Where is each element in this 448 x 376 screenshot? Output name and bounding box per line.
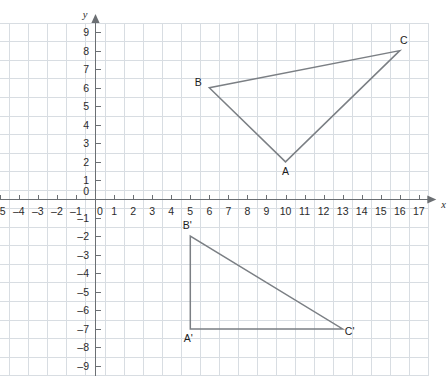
x-tick-label: 6 (206, 205, 212, 217)
x-tick-label: 16 (394, 205, 406, 217)
y-tick-label: 6 (83, 82, 89, 94)
x-tick-label: 8 (244, 205, 250, 217)
y-tick-label: –8 (77, 341, 89, 353)
x-tick-label: –5 (0, 205, 6, 217)
x-tick-label: 10 (280, 205, 292, 217)
y-tick-label: 9 (83, 26, 89, 38)
x-tick-label: 13 (337, 205, 349, 217)
x-axis-arrowhead (427, 195, 436, 203)
x-tick-label: 15 (375, 205, 387, 217)
y-tick-label: –3 (77, 249, 89, 261)
y-tick-label: 5 (83, 100, 89, 112)
vertex-label-a: A (282, 165, 289, 177)
x-tick-label: 5 (187, 205, 193, 217)
x-tick-label: –2 (51, 205, 63, 217)
x-tick-label: 11 (299, 205, 310, 217)
y-tick-label: 4 (83, 119, 89, 131)
x-tick-label: 9 (264, 205, 270, 217)
x-tick-label: 2 (130, 205, 136, 217)
vertex-label-c: C (400, 34, 408, 46)
x-tick-label: –3 (32, 205, 44, 217)
y-tick-label: 7 (83, 63, 89, 75)
x-tick-label: –4 (13, 205, 25, 217)
vertex-label-b: B (195, 76, 202, 88)
x-tick-label: 14 (356, 205, 368, 217)
y-axis-label: y (82, 9, 88, 20)
vertex-label-b-prime: B' (183, 219, 192, 231)
origin-label-upper: 0 (83, 185, 89, 197)
x-tick-label: 7 (225, 205, 231, 217)
origin-label-lower: 0 (97, 205, 103, 217)
y-tick-label: –6 (77, 304, 89, 316)
y-tick-label: 8 (83, 45, 89, 57)
y-tick-label: –2 (77, 230, 89, 242)
y-tick-label: 3 (83, 137, 89, 149)
coordinate-grid-svg: –5–4–3–2–1123456789101112131415161798765… (0, 0, 448, 376)
x-tick-label: 1 (111, 205, 117, 217)
y-tick-label: –4 (77, 267, 89, 279)
x-tick-label: 17 (413, 205, 425, 217)
coordinate-plane-figure: –5–4–3–2–1123456789101112131415161798765… (0, 0, 448, 376)
y-axis-arrowhead (91, 14, 99, 23)
y-tick-label: –1 (77, 212, 89, 224)
axes (0, 14, 436, 376)
vertex-label-a-prime: A' (184, 332, 193, 344)
x-tick-label: 4 (168, 205, 174, 217)
vertex-label-c-prime: C' (345, 325, 355, 337)
axis-names: xy (82, 9, 447, 210)
y-tick-label: –7 (77, 323, 89, 335)
y-tick-label: –5 (77, 286, 89, 298)
x-tick-label: 12 (318, 205, 330, 217)
x-axis-label: x (440, 199, 446, 210)
y-tick-label: –9 (77, 360, 89, 372)
x-tick-label: 3 (149, 205, 155, 217)
y-tick-label: 2 (83, 156, 89, 168)
